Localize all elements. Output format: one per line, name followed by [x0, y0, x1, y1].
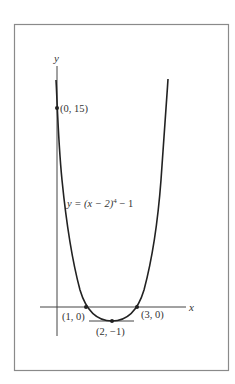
point-0-15	[55, 106, 59, 110]
equation-label: y = (x − 2)4 − 1	[66, 197, 133, 210]
y-axis-label: y	[53, 52, 59, 64]
point-2-minus1	[110, 319, 114, 323]
label-point-3-0: (3, 0)	[141, 309, 164, 321]
point-1-0	[84, 305, 88, 309]
equation-prefix: y = (x − 2)	[66, 198, 114, 210]
point-3-0	[135, 305, 139, 309]
x-axis-label: x	[188, 301, 194, 313]
label-point-2-minus1: (2, −1)	[96, 326, 125, 338]
label-point-1-0: (1, 0)	[62, 311, 85, 323]
equation-suffix: − 1	[117, 198, 133, 209]
label-point-0-15: (0, 15)	[60, 103, 88, 115]
function-graph-figure: y x (0, 15) (1, 0) (3, 0) (2, −1) y = (x…	[0, 0, 235, 384]
